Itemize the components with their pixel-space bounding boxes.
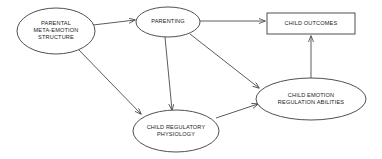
node-child-emotion-regulation-abilities[interactable] [256, 78, 366, 120]
edge-meta-emotion-to-child-regulatory-physiology [79, 50, 141, 114]
diagram-graphics [0, 0, 382, 159]
edge-child-regulatory-physiology-to-child-emotion-regulation [216, 104, 258, 118]
edge-parenting-to-child-regulatory-physiology [165, 37, 172, 110]
edge-parenting-to-child-emotion-regulation [190, 34, 259, 88]
edge-meta-emotion-to-parenting [93, 20, 135, 25]
diagram-canvas: PARENTAL META-EMOTION STRUCTUREPARENTING… [0, 0, 382, 159]
node-parental-meta-emotion-structure[interactable] [17, 8, 95, 54]
node-child-regulatory-physiology[interactable] [133, 110, 219, 152]
nodes-layer [17, 7, 366, 152]
node-parenting[interactable] [136, 7, 200, 37]
node-child-outcomes[interactable] [267, 13, 355, 34]
